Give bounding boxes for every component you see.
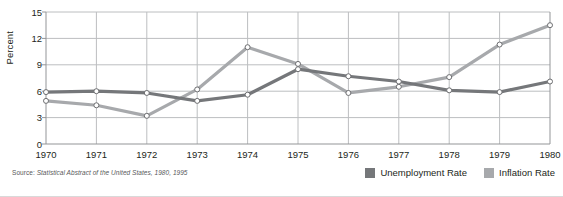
data-point-marker xyxy=(245,45,250,50)
x-tick-1978: 1978 xyxy=(426,150,472,160)
x-tick-1972: 1972 xyxy=(124,150,170,160)
data-point-marker xyxy=(396,84,401,89)
y-tick-6: 6 xyxy=(20,87,42,97)
y-axis-tick-labels: 15 12 9 6 3 0 xyxy=(16,0,42,197)
x-tick-1977: 1977 xyxy=(376,150,422,160)
data-point-marker xyxy=(94,89,99,94)
source-note-label: Source: xyxy=(12,169,35,176)
y-tick-marks xyxy=(42,12,46,144)
legend-item-unemployment-rate: Unemployment Rate xyxy=(365,168,467,178)
source-note: Source: Statistical Abstract of the Unit… xyxy=(12,169,188,176)
legend-swatch-inflation-icon xyxy=(484,168,494,178)
source-note-title: Statistical Abstract of the United State… xyxy=(37,169,188,176)
data-point-marker xyxy=(447,88,452,93)
data-point-marker xyxy=(548,23,553,28)
data-point-marker xyxy=(94,103,99,108)
data-point-marker xyxy=(497,42,502,47)
x-tick-1979: 1979 xyxy=(477,150,523,160)
data-point-marker xyxy=(346,90,351,95)
legend-label-inflation: Inflation Rate xyxy=(499,168,555,178)
legend-item-inflation-rate: Inflation Rate xyxy=(484,168,555,178)
x-tick-1976: 1976 xyxy=(325,150,371,160)
legend-label-unemployment: Unemployment Rate xyxy=(380,168,467,178)
x-tick-1970: 1970 xyxy=(23,150,69,160)
data-point-marker xyxy=(548,79,553,84)
y-tick-15: 15 xyxy=(20,8,42,18)
bottom-divider xyxy=(0,196,563,197)
y-tick-12: 12 xyxy=(20,34,42,44)
data-point-marker xyxy=(245,92,250,97)
x-tick-1980: 1980 xyxy=(527,150,563,160)
y-tick-0: 0 xyxy=(20,140,42,150)
data-point-marker xyxy=(497,90,502,95)
y-axis-title: Percent xyxy=(4,51,15,65)
data-point-marker xyxy=(296,67,301,72)
data-point-marker xyxy=(44,90,49,95)
data-point-marker xyxy=(447,75,452,80)
data-point-marker xyxy=(44,98,49,103)
legend-swatch-unemployment-icon xyxy=(365,168,375,178)
data-point-marker xyxy=(296,61,301,66)
chart-figure: Percent 15 12 9 6 3 0 1970 1971 1972 197… xyxy=(0,0,563,197)
x-tick-1973: 1973 xyxy=(174,150,220,160)
data-point-marker xyxy=(144,90,149,95)
y-tick-9: 9 xyxy=(20,60,42,70)
chart-legend: Unemployment Rate Inflation Rate xyxy=(365,168,555,178)
data-point-marker xyxy=(346,74,351,79)
x-tick-1971: 1971 xyxy=(73,150,119,160)
x-tick-1975: 1975 xyxy=(275,150,321,160)
data-point-marker xyxy=(396,79,401,84)
y-tick-3: 3 xyxy=(20,113,42,123)
x-tick-1974: 1974 xyxy=(225,150,271,160)
data-point-marker xyxy=(195,98,200,103)
data-point-marker xyxy=(195,87,200,92)
data-point-marker xyxy=(144,113,149,118)
